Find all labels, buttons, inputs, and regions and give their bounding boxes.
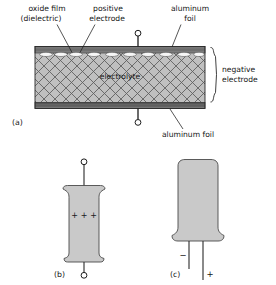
figure-electrolytic-capacitor: electrolyte oxide film (dielectric) posi… [0, 0, 276, 285]
label-oxide-film-line2: (dielectric) [21, 14, 62, 23]
electrolyte-label: electrolyte [100, 72, 141, 81]
panel-label-c: (c) [170, 270, 180, 279]
aluminum-foil-top-bar [35, 47, 205, 54]
axial-capacitor-body [63, 186, 105, 263]
positive-terminal-ring [135, 30, 141, 36]
axial-polarity-mark-1: + [71, 211, 78, 220]
label-aluminum-foil-bottom: aluminum foil [162, 130, 214, 139]
label-aluminum-foil-top-line1: aluminum [171, 4, 209, 13]
label-aluminum-foil-top-line2: foil [184, 14, 196, 23]
radial-positive-sign: + [206, 269, 213, 279]
label-positive-electrode-line2: electrode [89, 14, 125, 23]
label-negative-electrode-line2: electrode [222, 75, 258, 84]
radial-capacitor-body [172, 160, 224, 242]
negative-terminal-ring [135, 120, 141, 126]
panel-label-a: (a) [12, 118, 23, 127]
panel-label-b: (b) [54, 270, 65, 279]
axial-top-terminal-ring [81, 159, 87, 165]
radial-negative-sign: − [179, 250, 186, 260]
figure-canvas: electrolyte oxide film (dielectric) posi… [0, 0, 276, 285]
axial-bottom-terminal-ring [81, 272, 87, 278]
axial-polarity-mark-2: + [81, 211, 88, 220]
aluminum-foil-bottom-bar [35, 103, 205, 109]
label-negative-electrode-line1: negative [222, 65, 256, 74]
label-oxide-film-line1: oxide film [28, 4, 65, 13]
axial-polarity-mark-3: + [90, 211, 97, 220]
label-positive-electrode-line1: positive [93, 4, 123, 13]
